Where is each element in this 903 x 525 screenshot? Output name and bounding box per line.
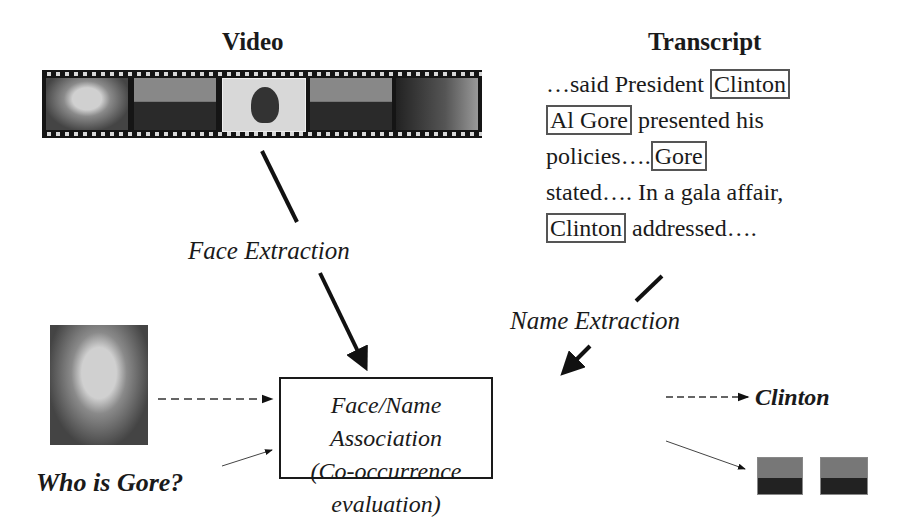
face-extraction-arrow — [320, 273, 364, 364]
query-name-arrow — [222, 450, 272, 466]
result-faces-arrow — [666, 441, 745, 469]
name-extraction-line-top — [636, 276, 662, 301]
diagram-arrows — [0, 0, 903, 525]
name-extraction-arrow — [566, 346, 590, 370]
face-extraction-line-top — [262, 151, 297, 222]
